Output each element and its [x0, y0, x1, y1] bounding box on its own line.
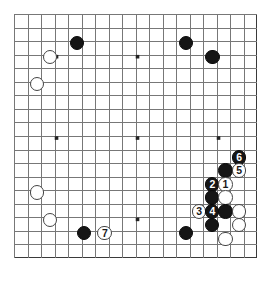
stone-move-number: 4: [209, 206, 215, 217]
black-stone[interactable]: [205, 50, 220, 65]
white-stone[interactable]: [218, 190, 233, 205]
black-stone[interactable]: [218, 204, 233, 219]
stone-move-number: 1: [222, 179, 228, 190]
go-board[interactable]: 6521347: [14, 14, 257, 258]
stone-move-number: 2: [209, 179, 215, 190]
stone-move-number: 3: [196, 206, 202, 217]
white-stone[interactable]: [218, 232, 233, 247]
stone-move-number: 7: [102, 227, 108, 238]
white-stone[interactable]: [232, 204, 247, 219]
stone-move-number: 6: [236, 152, 242, 163]
move-stone-7[interactable]: 7: [97, 226, 112, 241]
move-stone-5[interactable]: 5: [232, 163, 247, 178]
stone-move-number: 5: [236, 165, 242, 176]
black-stone[interactable]: [218, 163, 233, 178]
white-stone[interactable]: [30, 185, 45, 200]
go-diagram-screenshot: 6521347: [0, 0, 272, 285]
